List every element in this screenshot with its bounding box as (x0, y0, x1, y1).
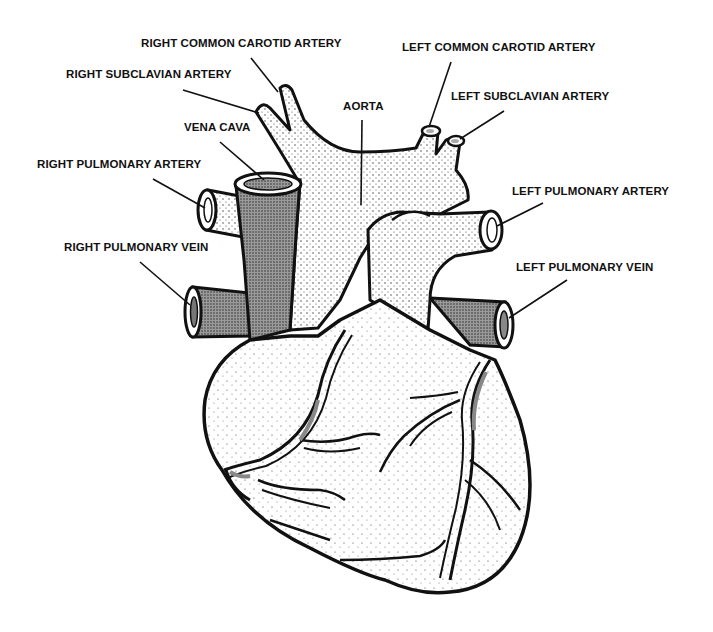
label-left-subclavian-artery: LEFT SUBCLAVIAN ARTERY (451, 90, 609, 103)
label-right-pulmonary-artery: RIGHT PULMONARY ARTERY (37, 158, 201, 171)
label-left-common-carotid-artery: LEFT COMMON CAROTID ARTERY (402, 41, 595, 54)
label-left-pulmonary-vein: LEFT PULMONARY VEIN (516, 261, 653, 274)
label-right-subclavian-artery: RIGHT SUBCLAVIAN ARTERY (66, 68, 231, 81)
label-right-pulmonary-vein: RIGHT PULMONARY VEIN (64, 241, 208, 254)
label-right-common-carotid-artery: RIGHT COMMON CAROTID ARTERY (141, 37, 342, 50)
heart-diagram: RIGHT COMMON CAROTID ARTERY RIGHT SUBCLA… (0, 0, 713, 632)
label-left-pulmonary-artery: LEFT PULMONARY ARTERY (512, 185, 669, 198)
right-pulmonary-vein-vessel (185, 287, 250, 337)
label-vena-cava: VENA CAVA (184, 121, 251, 134)
label-aorta: AORTA (343, 100, 384, 113)
